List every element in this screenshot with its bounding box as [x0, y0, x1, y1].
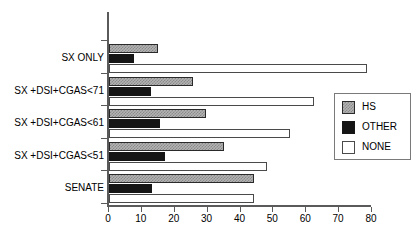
x-axis-tick: [240, 207, 241, 212]
x-axis-tick: [174, 207, 175, 212]
y-axis-tick: [101, 138, 108, 139]
x-axis-tick-label: 10: [128, 213, 154, 225]
legend-entry-other: OTHER: [342, 120, 397, 134]
x-axis-tick: [272, 207, 273, 212]
bar-chart: 01020304050607080 SX ONLYSX +DSI+CGAS<71…: [0, 0, 416, 238]
category-label: SENATE: [65, 182, 104, 194]
bar-none: [109, 194, 254, 203]
x-axis-tick-label: 60: [292, 213, 318, 225]
bar-hs: [109, 109, 206, 118]
category-label: SX ONLY: [61, 52, 104, 64]
bar-hs: [109, 44, 158, 53]
bar-none: [109, 162, 267, 171]
x-axis-tick: [371, 207, 372, 212]
legend-swatch-hs-icon: [342, 101, 355, 114]
legend-label-none: NONE: [362, 141, 391, 153]
category-label: SX +DSI+CGAS<51: [14, 150, 104, 162]
bar-other: [109, 152, 165, 161]
x-axis-tick: [338, 207, 339, 212]
category-label: SX +DSI+CGAS<71: [14, 85, 104, 97]
legend-entry-none: NONE: [342, 140, 391, 154]
bar-none: [109, 64, 367, 73]
bar-none: [109, 97, 314, 106]
y-axis-tick: [101, 203, 108, 204]
x-axis-tick-label: 30: [194, 213, 220, 225]
bar-hs: [109, 77, 193, 86]
bar-hs: [109, 174, 254, 183]
y-axis-tick: [101, 40, 108, 41]
bar-hs: [109, 142, 224, 151]
x-axis-tick: [305, 207, 306, 212]
x-axis-tick: [108, 207, 109, 212]
x-axis-tick: [207, 207, 208, 212]
x-axis-tick-label: 40: [227, 213, 253, 225]
y-axis-tick: [101, 105, 108, 106]
x-axis-tick-label: 50: [259, 213, 285, 225]
legend-swatch-other-icon: [342, 121, 355, 134]
x-axis-tick-label: 70: [325, 213, 351, 225]
y-axis-tick: [101, 170, 108, 171]
bar-other: [109, 87, 151, 96]
legend-entry-hs: HS: [342, 100, 376, 114]
x-axis-tick-label: 20: [161, 213, 187, 225]
bar-none: [109, 129, 290, 138]
category-label: SX +DSI+CGAS<61: [14, 117, 104, 129]
x-axis-tick-label: 0: [95, 213, 121, 225]
x-axis-tick: [141, 207, 142, 212]
bar-other: [109, 54, 134, 63]
legend-swatch-none-icon: [342, 141, 355, 154]
x-axis-tick-label: 80: [358, 213, 384, 225]
legend-label-other: OTHER: [362, 121, 397, 133]
y-axis-tick: [101, 73, 108, 74]
bar-other: [109, 119, 160, 128]
legend-label-hs: HS: [362, 101, 376, 113]
chart-legend: HS OTHER NONE: [334, 93, 411, 160]
bar-other: [109, 184, 152, 193]
